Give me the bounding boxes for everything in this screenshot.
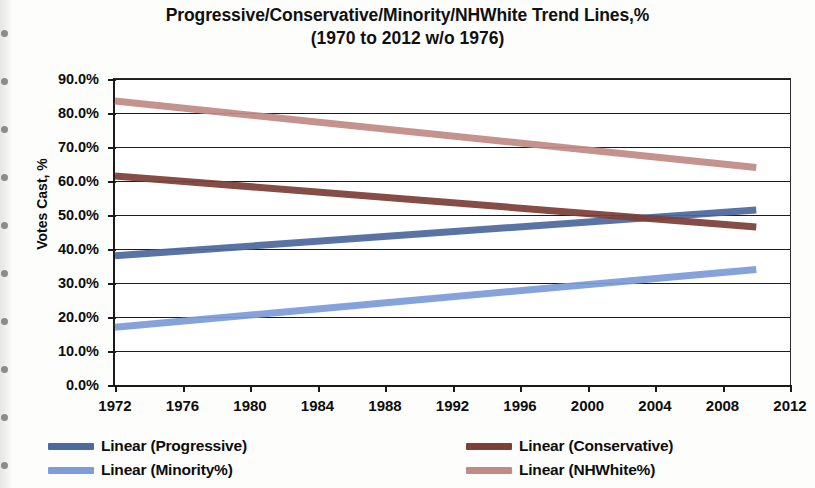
y-axis-tick-label: 0.0%: [66, 377, 99, 393]
y-axis-tick-label: 60.0%: [58, 173, 99, 189]
scan-artifact-dot: [1, 126, 8, 133]
x-axis-tick-label: 1996: [503, 397, 536, 414]
trend-line-linear-conservative: [115, 176, 756, 227]
chart-legend: Linear (Progressive)Linear (Conservative…: [48, 437, 808, 485]
x-axis-tick: [790, 385, 792, 392]
legend-label: Linear (Progressive): [101, 437, 247, 455]
scan-artifact-dot: [1, 30, 8, 37]
y-axis-tick-label: 40.0%: [58, 241, 99, 257]
chart-page: Progressive/Conservative/Minority/NHWhit…: [0, 0, 815, 488]
legend-color-swatch: [466, 467, 512, 474]
y-axis-tick-label: 80.0%: [58, 105, 99, 121]
x-axis-tick-label: 2004: [638, 397, 671, 414]
x-axis-tick: [588, 385, 590, 392]
x-axis-tick-label: 2000: [571, 397, 604, 414]
legend-label: Linear (NHWhite%): [519, 461, 655, 479]
x-axis-tick-label: 1992: [436, 397, 469, 414]
chart-title-block: Progressive/Conservative/Minority/NHWhit…: [0, 4, 815, 50]
x-axis-tick: [318, 385, 320, 392]
plot-area: 0.0%10.0%20.0%30.0%40.0%50.0%60.0%70.0%8…: [113, 78, 791, 387]
y-axis-tick-label: 30.0%: [58, 275, 99, 291]
scan-artifact-dot: [1, 222, 8, 229]
x-axis-tick-label: 2008: [706, 397, 739, 414]
legend-item[interactable]: Linear (NHWhite%): [466, 461, 655, 479]
legend-item[interactable]: Linear (Minority%): [48, 461, 233, 479]
scan-artifact-dot: [1, 174, 8, 181]
x-axis-tick-label: 2012: [773, 397, 806, 414]
legend-label: Linear (Conservative): [519, 437, 673, 455]
x-axis-tick-label: 1976: [166, 397, 199, 414]
y-axis-tick-label: 50.0%: [58, 207, 99, 223]
scan-artifact-dot: [1, 462, 8, 469]
trend-line-linear-nhwhite: [115, 101, 756, 167]
x-axis-tick: [385, 385, 387, 392]
legend-color-swatch: [48, 443, 94, 450]
legend-color-swatch: [48, 467, 94, 474]
y-axis-tick-label: 70.0%: [58, 139, 99, 155]
x-axis-tick-label: 1972: [98, 397, 131, 414]
y-axis-tick-label: 90.0%: [58, 71, 99, 87]
y-axis-tick-label: 10.0%: [58, 343, 99, 359]
x-axis-tick: [250, 385, 252, 392]
y-axis-title: Votes Cast, %: [34, 114, 50, 294]
x-axis-tick: [183, 385, 185, 392]
x-axis-tick: [453, 385, 455, 392]
chart-title: Progressive/Conservative/Minority/NHWhit…: [0, 4, 815, 27]
x-axis-tick-label: 1988: [368, 397, 401, 414]
x-axis-tick: [520, 385, 522, 392]
x-axis-tick: [655, 385, 657, 392]
y-axis-tick-label: 20.0%: [58, 309, 99, 325]
x-axis-tick: [723, 385, 725, 392]
x-axis-tick-label: 1984: [301, 397, 334, 414]
legend-label: Linear (Minority%): [101, 461, 233, 479]
legend-item[interactable]: Linear (Progressive): [48, 437, 247, 455]
trend-lines: [115, 79, 790, 385]
scan-artifact-dot: [1, 270, 8, 277]
scan-artifact-dot: [1, 414, 8, 421]
trend-line-linear-minority: [115, 269, 756, 327]
legend-color-swatch: [466, 443, 512, 450]
chart-subtitle: (1970 to 2012 w/o 1976): [0, 27, 815, 50]
x-axis-tick-label: 1980: [233, 397, 266, 414]
legend-item[interactable]: Linear (Conservative): [466, 437, 673, 455]
scan-artifact-dot: [1, 78, 8, 85]
x-axis-tick: [115, 385, 117, 392]
scan-artifact-dot: [1, 318, 8, 325]
scan-artifact-dot: [1, 366, 8, 373]
